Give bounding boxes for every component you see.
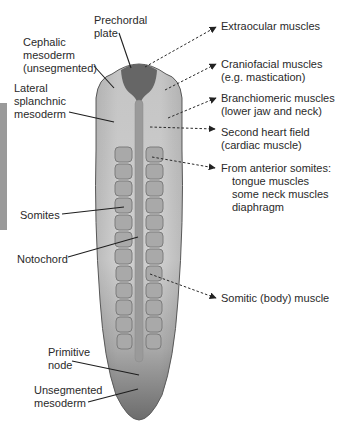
label-somitic-body-muscle: Somitic (body) muscle bbox=[221, 292, 329, 305]
notochord bbox=[135, 100, 143, 362]
label-somites: Somites bbox=[20, 209, 60, 222]
arrow-extraocular bbox=[145, 27, 216, 67]
label-primitive-node: Primitive node bbox=[48, 346, 90, 372]
label-anterior-somites-title: From anterior somites: bbox=[221, 162, 331, 175]
label-notochord: Notochord bbox=[17, 253, 68, 266]
label-anterior-somites-list: tongue muscles some neck muscles diaphra… bbox=[232, 175, 329, 214]
label-lateral-splanchnic-mesoderm: Lateral splanchnic mesoderm bbox=[14, 82, 66, 121]
label-cephalic-mesoderm: Cephalic mesoderm (unsegmented) bbox=[23, 36, 97, 75]
label-unsegmented-mesoderm: Unsegmented mesoderm bbox=[34, 384, 103, 410]
label-second-heart-field: Second heart field (cardiac muscle) bbox=[221, 126, 310, 152]
label-craniofacial-muscles: Craniofacial muscles (e.g. mastication) bbox=[221, 58, 322, 84]
label-branchiomeric-muscles: Branchiomeric muscles (lower jaw and nec… bbox=[221, 92, 335, 118]
label-prechordal-plate: Prechordal plate bbox=[94, 14, 147, 40]
label-extraocular-muscles: Extraocular muscles bbox=[221, 20, 320, 33]
